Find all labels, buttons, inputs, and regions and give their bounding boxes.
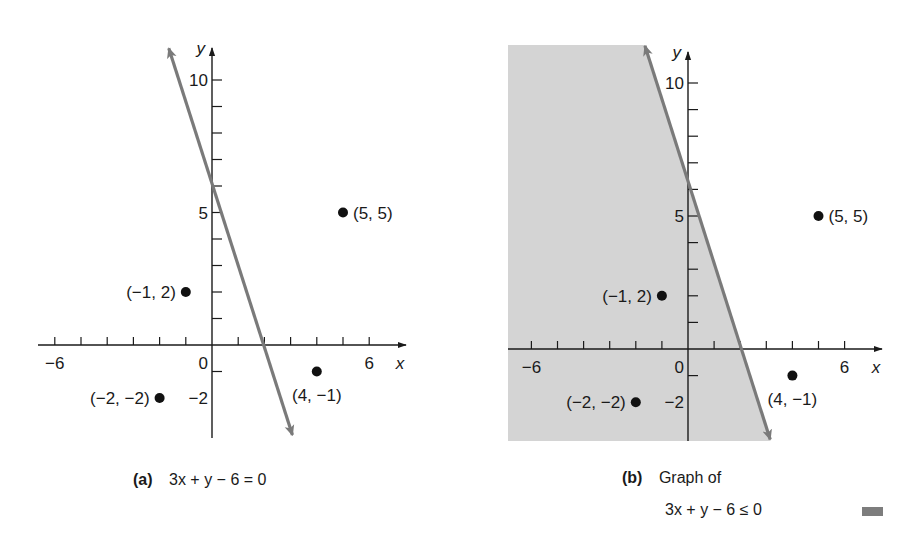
x-tick-label: 6 bbox=[364, 354, 373, 373]
origin-label: 0 bbox=[199, 354, 208, 373]
caption-b-tag: (b) bbox=[622, 469, 642, 486]
caption-b-line1: Graph of bbox=[659, 469, 721, 486]
data-point bbox=[657, 291, 667, 301]
point-label: (−2, −2) bbox=[90, 389, 150, 408]
data-point bbox=[155, 393, 165, 403]
data-point bbox=[787, 371, 797, 381]
y-axis-label: y bbox=[672, 43, 683, 62]
graph-panel-b: −66x105−2y0(5, 5)(−1, 2)(−2, −2)(4, −1) bbox=[508, 43, 882, 441]
caption-b-line2: 3x + y − 6 ≤ 0 bbox=[665, 501, 762, 518]
caption-b: (b) Graph of bbox=[622, 461, 721, 494]
y-axis-label: y bbox=[196, 39, 207, 58]
shaded-region bbox=[508, 45, 771, 441]
data-point bbox=[312, 367, 322, 377]
point-label: (4, −1) bbox=[768, 390, 818, 409]
x-axis-label: x bbox=[395, 354, 405, 373]
boundary-line bbox=[169, 48, 293, 435]
point-label: (5, 5) bbox=[829, 207, 869, 226]
point-label: (−1, 2) bbox=[602, 287, 652, 306]
y-tick-label: 5 bbox=[675, 207, 684, 226]
page-marker bbox=[862, 507, 883, 516]
x-tick-label: −6 bbox=[45, 354, 64, 373]
point-label: (−2, −2) bbox=[566, 393, 626, 412]
caption-b-inequality: 3x + y − 6 ≤ 0 bbox=[665, 493, 762, 526]
x-axis-label: x bbox=[871, 358, 881, 377]
x-tick-label: 6 bbox=[840, 358, 849, 377]
origin-label: 0 bbox=[675, 358, 684, 377]
caption-a-equation: 3x + y − 6 = 0 bbox=[169, 471, 266, 488]
data-point bbox=[814, 211, 824, 221]
y-tick-label: 5 bbox=[199, 204, 208, 223]
y-tick-label: 10 bbox=[665, 74, 684, 93]
graph-panel-a: −66x105−2y0(5, 5)(−1, 2)(−2, −2)(4, −1) bbox=[38, 39, 406, 438]
x-tick-label: −6 bbox=[522, 358, 541, 377]
y-tick-label: −2 bbox=[665, 393, 684, 412]
point-label: (5, 5) bbox=[353, 204, 393, 223]
data-point bbox=[338, 208, 348, 218]
point-label: (4, −1) bbox=[292, 386, 342, 405]
caption-a-tag: (a) bbox=[133, 471, 153, 488]
y-tick-label: −2 bbox=[189, 389, 208, 408]
y-tick-label: 10 bbox=[189, 71, 208, 90]
data-point bbox=[181, 287, 191, 297]
caption-a: (a) 3x + y − 6 = 0 bbox=[133, 463, 266, 496]
data-point bbox=[631, 397, 641, 407]
point-label: (−1, 2) bbox=[126, 283, 176, 302]
